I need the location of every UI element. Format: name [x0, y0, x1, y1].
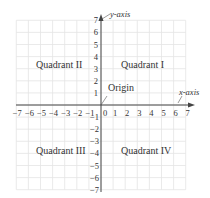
x-tick-label: −7	[13, 108, 22, 118]
y-tick-label: 2	[94, 76, 98, 86]
x-tick-label: 4	[149, 108, 154, 118]
x-tick-label: −2	[73, 108, 82, 118]
x-axis-leader	[178, 96, 182, 103]
y-tick-label: −2	[90, 124, 99, 134]
x-tick-label: 3	[137, 108, 141, 118]
y-tick-label: −1	[90, 112, 99, 122]
y-tick-label: 7	[94, 15, 98, 25]
y-tick-label: −3	[90, 136, 99, 146]
x-tick-label: −6	[25, 108, 34, 118]
y-axis-arrow-icon	[99, 14, 104, 21]
x-tick-label: −5	[37, 108, 46, 118]
x-axis-label: x-axis	[178, 87, 200, 97]
x-tick-label: 5	[161, 108, 165, 118]
y-tick-label: −4	[90, 148, 100, 158]
origin-leader	[101, 96, 107, 105]
x-tick-label: 6	[173, 108, 177, 118]
x-axis-arrow-icon	[188, 103, 195, 108]
y-tick-label: 5	[94, 40, 98, 50]
x-tick-label: 7	[186, 108, 190, 118]
quadrant-ii-label: Quadrant II	[36, 59, 82, 70]
quadrant-iv-label: Quadrant IV	[121, 145, 172, 156]
y-tick-label: −7	[90, 185, 99, 195]
x-tick-label: −4	[49, 108, 59, 118]
y-tick-label: −6	[90, 173, 99, 183]
y-axis-label: y-axis	[109, 9, 131, 19]
coordinate-plane: −7−6−5−4−3−2−1012345671234567−1−2−3−4−5−…	[0, 0, 210, 198]
x-tick-label: 2	[125, 108, 129, 118]
y-tick-label: 6	[94, 27, 98, 37]
origin-label: Origin	[108, 82, 134, 93]
quadrant-i-label: Quadrant I	[121, 59, 164, 70]
y-tick-label: 1	[94, 88, 98, 98]
x-tick-label: 0	[103, 108, 107, 118]
x-tick-label: −3	[61, 108, 70, 118]
y-tick-label: 3	[94, 64, 98, 74]
quadrant-iii-label: Quadrant III	[36, 145, 86, 156]
y-axis-leader	[102, 14, 110, 19]
x-tick-label: 1	[113, 108, 117, 118]
y-tick-label: −5	[90, 161, 99, 171]
